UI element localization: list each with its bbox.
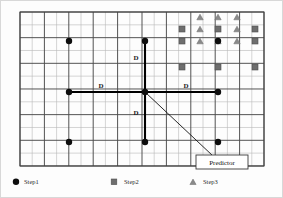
step1-marker xyxy=(142,139,148,145)
circle-icon xyxy=(13,179,19,185)
step2-marker xyxy=(215,64,221,70)
figure-container: DDDD Predictor Step1Step2Step3 xyxy=(0,0,283,198)
diagram-canvas: DDDD Predictor Step1Step2Step3 xyxy=(0,0,283,198)
d-left: D xyxy=(98,82,103,90)
legend-label: Step2 xyxy=(124,178,139,185)
step1-marker xyxy=(66,139,72,145)
step2-marker xyxy=(215,26,221,32)
step1-marker xyxy=(66,38,72,44)
predictor-label: Predictor xyxy=(209,159,235,167)
legend-label: Step1 xyxy=(24,178,39,185)
square-icon xyxy=(111,179,117,185)
d-right: D xyxy=(183,82,188,90)
step2-marker xyxy=(179,26,185,32)
step2-marker xyxy=(252,38,258,44)
d-up: D xyxy=(133,54,138,62)
d-down: D xyxy=(133,109,138,117)
step2-marker xyxy=(179,38,185,44)
step2-marker xyxy=(252,64,258,70)
step1-marker xyxy=(66,89,72,95)
step2-marker xyxy=(252,26,258,32)
legend-step2: Step2 xyxy=(111,178,139,185)
predictor-callout[interactable]: Predictor xyxy=(196,155,248,169)
step1-marker xyxy=(142,89,148,95)
legend-step1: Step1 xyxy=(13,178,39,185)
legend-label: Step3 xyxy=(203,178,218,185)
step1-marker xyxy=(215,38,221,44)
step1-marker xyxy=(215,89,221,95)
step1-marker xyxy=(142,38,148,44)
step1-marker xyxy=(215,139,221,145)
step2-marker xyxy=(179,64,185,70)
